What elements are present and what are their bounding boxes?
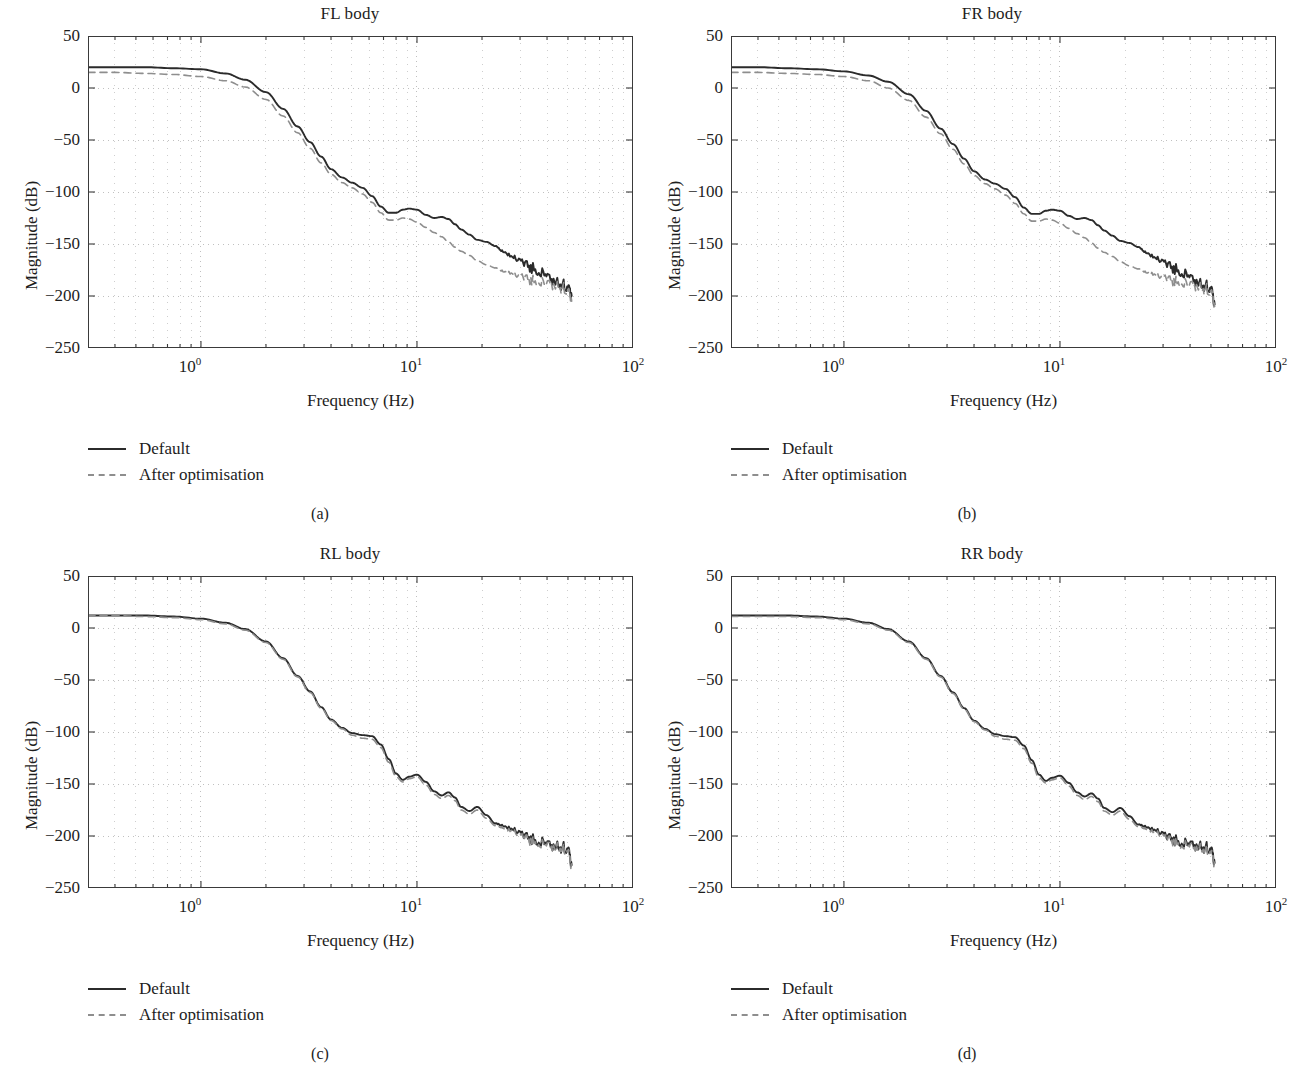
y-tick-label: −100 — [10, 722, 80, 742]
plot-svg-rr — [731, 576, 1276, 888]
x-axis-label: Frequency (Hz) — [88, 391, 633, 411]
subfigure-caption: (c) — [0, 1045, 640, 1063]
legend-item: Default — [88, 436, 264, 462]
legend-label: Default — [139, 439, 190, 459]
y-tick-label: −50 — [659, 130, 723, 150]
legend-line-dashed-icon — [88, 1014, 126, 1016]
y-tick-label: −150 — [653, 234, 723, 254]
legend-item: After optimisation — [731, 1002, 907, 1028]
subfigure-caption: (a) — [0, 505, 640, 523]
legend-item: Default — [731, 976, 907, 1002]
y-tick-label: 50 — [669, 566, 723, 586]
legend-line-solid-icon — [731, 448, 769, 450]
legend-line-dashed-icon — [731, 1014, 769, 1016]
legend-item: After optimisation — [88, 1002, 264, 1028]
x-axis-label: Frequency (Hz) — [731, 391, 1276, 411]
panel-title: RR body — [702, 544, 1282, 564]
y-tick-label: 0 — [26, 618, 80, 638]
y-tick-label: −250 — [653, 878, 723, 898]
y-tick-label: −50 — [16, 670, 80, 690]
y-tick-label: −100 — [10, 182, 80, 202]
plot-area-fr — [731, 36, 1276, 348]
legend-line-solid-icon — [731, 988, 769, 990]
plot-area-rl — [88, 576, 633, 888]
y-tick-label: 0 — [669, 618, 723, 638]
y-tick-label: −100 — [653, 182, 723, 202]
x-tick-label: 100 — [803, 897, 863, 917]
y-tick-label: 0 — [669, 78, 723, 98]
y-tick-label: 50 — [26, 26, 80, 46]
plot-svg-fl — [88, 36, 633, 348]
y-tick-label: −250 — [653, 338, 723, 358]
legend-label: After optimisation — [139, 1005, 264, 1025]
y-tick-label: 50 — [26, 566, 80, 586]
plot-area-fl — [88, 36, 633, 348]
legend-label: Default — [782, 979, 833, 999]
subfigure-caption: (d) — [647, 1045, 1287, 1063]
legend-rr: Default After optimisation — [731, 976, 907, 1028]
plot-area-rr — [731, 576, 1276, 888]
y-tick-label: 50 — [669, 26, 723, 46]
legend-rl: Default After optimisation — [88, 976, 264, 1028]
y-tick-label: −250 — [10, 338, 80, 358]
y-tick-label: −150 — [653, 774, 723, 794]
panel-title: FL body — [60, 4, 640, 24]
legend-label: After optimisation — [782, 465, 907, 485]
x-tick-label: 100 — [803, 357, 863, 377]
panel-rl-body: RL body Magnitude (dB) 50 0 −50 −100 −15… — [0, 540, 647, 1075]
x-axis-label: Frequency (Hz) — [88, 931, 633, 951]
x-tick-label: 101 — [1024, 897, 1084, 917]
legend-fr: Default After optimisation — [731, 436, 907, 488]
legend-line-solid-icon — [88, 448, 126, 450]
legend-line-solid-icon — [88, 988, 126, 990]
plot-svg-rl — [88, 576, 633, 888]
y-tick-label: 0 — [26, 78, 80, 98]
panel-rr-body: RR body Magnitude (dB) 50 0 −50 −100 −15… — [647, 540, 1294, 1075]
legend-fl: Default After optimisation — [88, 436, 264, 488]
plot-svg-fr — [731, 36, 1276, 348]
y-tick-label: −250 — [10, 878, 80, 898]
x-tick-label: 101 — [1024, 357, 1084, 377]
x-tick-label: 101 — [381, 357, 441, 377]
legend-line-dashed-icon — [731, 474, 769, 476]
panel-fr-body: FR body Magnitude (dB) 50 0 −50 −100 −15… — [647, 0, 1294, 537]
y-tick-label: −200 — [10, 826, 80, 846]
legend-line-dashed-icon — [88, 474, 126, 476]
y-tick-label: −50 — [659, 670, 723, 690]
legend-item: After optimisation — [731, 462, 907, 488]
y-tick-label: −200 — [653, 286, 723, 306]
y-tick-label: −150 — [10, 774, 80, 794]
x-tick-label: 101 — [381, 897, 441, 917]
panel-title: FR body — [702, 4, 1282, 24]
panel-fl-body: FL body Magnitude (dB) 50 0 −50 −100 −15… — [0, 0, 647, 537]
x-tick-label: 100 — [160, 897, 220, 917]
legend-label: Default — [139, 979, 190, 999]
y-tick-label: −150 — [10, 234, 80, 254]
x-axis-label: Frequency (Hz) — [731, 931, 1276, 951]
panel-title: RL body — [60, 544, 640, 564]
x-tick-label: 102 — [1246, 897, 1294, 917]
legend-item: After optimisation — [88, 462, 264, 488]
legend-label: Default — [782, 439, 833, 459]
y-tick-label: −200 — [653, 826, 723, 846]
y-tick-label: −50 — [16, 130, 80, 150]
x-tick-label: 102 — [1246, 357, 1294, 377]
y-tick-label: −100 — [653, 722, 723, 742]
legend-item: Default — [731, 436, 907, 462]
legend-label: After optimisation — [139, 465, 264, 485]
legend-label: After optimisation — [782, 1005, 907, 1025]
legend-item: Default — [88, 976, 264, 1002]
x-tick-label: 100 — [160, 357, 220, 377]
subfigure-caption: (b) — [647, 505, 1287, 523]
figure-bode-magnitude-grid: FL body Magnitude (dB) 50 0 −50 −100 −15… — [0, 0, 1294, 1075]
y-tick-label: −200 — [10, 286, 80, 306]
